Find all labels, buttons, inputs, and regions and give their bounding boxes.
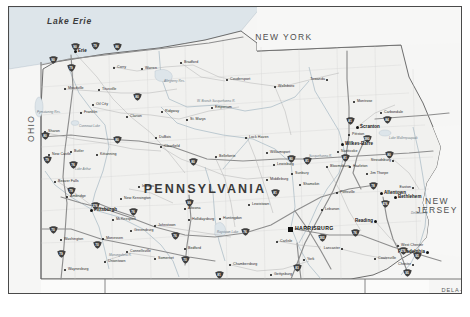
shield-route-number: 79: [57, 252, 66, 256]
city-label-carlisle: Carlisle: [280, 240, 292, 244]
interstate-shield-86-2[interactable]: 86: [113, 43, 122, 51]
city-label-bethlehem: Bethlehem: [398, 195, 421, 200]
interstate-shield-84-12[interactable]: 84: [383, 116, 392, 124]
city-label-meadville: Meadville: [68, 87, 84, 91]
city-marker-allentown: [380, 192, 383, 195]
city-label-easton: Easton: [400, 186, 412, 190]
city-label-reading: Reading: [355, 219, 373, 224]
interstate-shield-70-22[interactable]: 70: [49, 226, 58, 234]
shield-route-number: 476: [380, 202, 391, 206]
interstate-shield-76-31[interactable]: 76: [351, 229, 360, 237]
interstate-shield-76-25[interactable]: 76: [171, 232, 180, 240]
city-label-clarion: Clarion: [130, 115, 142, 119]
water-label-raystown-lake: Raystown Lake: [217, 231, 238, 234]
city-label-warren: Warren: [145, 67, 157, 71]
city-label-washington: Washington: [64, 238, 83, 242]
shield-route-number: 83: [293, 266, 302, 270]
interstate-shield-83-28[interactable]: 83: [293, 264, 302, 272]
shield-route-number: 81: [346, 119, 355, 123]
city-label-york: York: [307, 258, 314, 262]
interstate-shield-79-24[interactable]: 79: [57, 250, 66, 258]
interstate-shield-90-3[interactable]: 90: [49, 56, 58, 64]
city-label-coudersport: Coudersport: [230, 78, 250, 82]
city-marker-reading: [374, 220, 377, 223]
interstate-shield-78-15[interactable]: 78: [369, 182, 378, 190]
interstate-shield-80-8[interactable]: 80: [113, 136, 122, 144]
city-label-corry: Corry: [117, 66, 126, 70]
interstate-shield-80-18[interactable]: 80: [133, 93, 142, 101]
interstate-shield-76-29[interactable]: 76: [241, 228, 250, 236]
city-label-dubois: DuBois: [159, 136, 171, 140]
interstate-shield-99-36[interactable]: 99: [185, 199, 194, 207]
interstate-shield-80-9[interactable]: 80: [189, 158, 198, 166]
interstate-shield-283-30[interactable]: 283: [317, 234, 328, 242]
water-label-susquehanna-r: Susquehanna R.: [309, 155, 332, 158]
city-label-somerset: Somerset: [158, 257, 174, 261]
city-label-lewistown: Lewistown: [252, 203, 269, 207]
interstate-shield-76-21[interactable]: 76: [129, 208, 138, 216]
shield-route-number: 80: [385, 153, 394, 157]
interstate-shield-79-1[interactable]: 79: [91, 42, 100, 50]
city-label-connellsville: Connellsville: [130, 250, 151, 254]
shield-route-number: 90: [71, 45, 80, 49]
maryland-area: [41, 279, 429, 293]
city-label-franklin: Franklin: [84, 111, 97, 115]
interstate-shield-81-35[interactable]: 81: [271, 189, 280, 197]
shield-route-number: 81: [303, 159, 312, 163]
city-label-ambridge: Ambridge: [70, 195, 86, 199]
shield-route-number: 79: [91, 44, 100, 48]
map-screenshot: Lake ErieNEW YORKOHIONEWJERSEYWEST VIRGI…: [0, 0, 470, 317]
interstate-shield-81-27[interactable]: 81: [215, 271, 224, 279]
interstate-shield-79-19[interactable]: 79: [67, 187, 76, 195]
interstate-shield-80-10[interactable]: 80: [287, 155, 296, 163]
shield-route-number: 80: [133, 95, 142, 99]
interstate-shield-70-26[interactable]: 70: [181, 256, 190, 264]
interstate-shield-79-4[interactable]: 79: [67, 64, 76, 72]
interstate-shield-380-37[interactable]: 380: [362, 135, 373, 143]
city-label-hazleton: Hazleton: [353, 165, 368, 169]
city-label-chambersburg: Chambersburg: [233, 263, 257, 267]
shield-route-number: 70: [49, 228, 58, 232]
shield-route-number: 80: [189, 160, 198, 164]
interstate-shield-476-33[interactable]: 476: [398, 247, 409, 255]
interstate-shield-79-6[interactable]: 79: [43, 156, 52, 164]
interstate-shield-80-14[interactable]: 80: [385, 151, 394, 159]
state-label-ohio: OHIO: [27, 115, 36, 142]
water-label-pymatuning-res: Pymatuning Res.: [37, 111, 61, 114]
shield-route-number: 79: [67, 66, 76, 70]
state-label-new-york: NEW YORK: [255, 33, 312, 42]
shield-route-number: 76: [351, 231, 360, 235]
city-label-altoona: Altoona: [188, 207, 201, 211]
city-label-new-castle: New Castle: [52, 153, 71, 157]
shield-route-number: 84: [383, 118, 392, 122]
interstate-shield-81-13[interactable]: 81: [341, 154, 350, 162]
interstate-shield-80-5[interactable]: 80: [41, 132, 50, 140]
shield-route-number: 70: [93, 243, 102, 247]
interstate-shield-76-7[interactable]: 76: [69, 161, 78, 169]
city-label-beaver-falls: Beaver Falls: [58, 180, 79, 184]
city-label-montrose: Montrose: [357, 100, 372, 104]
shield-route-number: 76: [69, 163, 78, 167]
shield-route-number: 99: [185, 201, 194, 205]
interstate-shield-70-23[interactable]: 70: [93, 241, 102, 249]
shield-route-number: 70: [181, 258, 190, 262]
interstate-shield-376-20[interactable]: 376: [90, 202, 101, 210]
city-label-waynesburg: Waynesburg: [68, 268, 89, 272]
city-label-st-marys: St. Marys: [190, 118, 206, 122]
interstate-shield-81-11[interactable]: 81: [346, 117, 355, 125]
city-label-bellefonte: Bellefonte: [219, 155, 235, 159]
city-label-towanda: Towanda: [310, 78, 325, 82]
interstate-shield-95-32[interactable]: 95: [413, 252, 422, 260]
interstate-shield-95-34[interactable]: 95: [403, 269, 412, 277]
city-label-coatesville: Coatesville: [378, 257, 396, 261]
interstate-shield-476-16[interactable]: 476: [380, 200, 391, 208]
shield-route-number: 78: [369, 184, 378, 188]
shield-route-number: 376: [90, 204, 101, 208]
interstate-shield-81-17[interactable]: 81: [303, 157, 312, 165]
city-label-carbondale: Carbondale: [384, 111, 403, 115]
city-label-bedford: Bedford: [188, 247, 201, 251]
shield-route-number: 79: [67, 189, 76, 193]
city-label-ridgway: Ridgway: [165, 110, 179, 114]
interstate-shield-90-0[interactable]: 90: [71, 43, 80, 51]
shield-route-number: 76: [129, 210, 138, 214]
